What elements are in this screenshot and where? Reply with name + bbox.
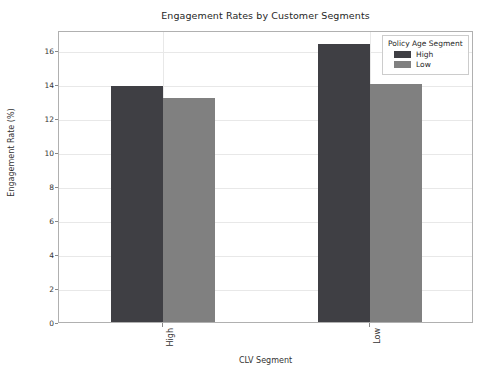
legend-entries: HighLow [388, 50, 463, 69]
x-axis-tick-mark [369, 323, 370, 327]
chart-figure: Engagement Rates by Customer Segments 02… [0, 0, 495, 376]
y-axis-label: Engagement Rate (%) [7, 43, 16, 263]
legend-entry-label: Low [416, 60, 431, 69]
legend-swatch [394, 51, 411, 58]
legend-entry[interactable]: High [394, 50, 463, 59]
plot-inner [59, 32, 472, 322]
chart-title: Engagement Rates by Customer Segments [58, 10, 473, 21]
y-axis-tick-label: 14 [20, 81, 54, 90]
x-axis-label: CLV Segment [58, 356, 473, 365]
legend-entry-label: High [416, 50, 433, 59]
y-axis-tick-mark [55, 323, 59, 324]
legend: Policy Age Segment HighLow [382, 35, 469, 75]
bar [370, 84, 422, 322]
y-axis-tick-label: 10 [20, 149, 54, 158]
x-axis-tick-label: High [166, 328, 175, 346]
y-axis-tick-label: 12 [20, 115, 54, 124]
y-axis-tick-label: 4 [20, 251, 54, 260]
y-axis-tick-label: 8 [20, 183, 54, 192]
y-axis-tick-label: 6 [20, 217, 54, 226]
y-axis-tick-label: 16 [20, 47, 54, 56]
legend-title: Policy Age Segment [388, 39, 463, 48]
x-axis-tick-label: Low [373, 328, 382, 344]
bar [163, 98, 215, 322]
legend-entry[interactable]: Low [394, 60, 463, 69]
bar [111, 86, 163, 322]
x-axis-tick-mark [162, 323, 163, 327]
legend-swatch [394, 61, 411, 68]
y-axis-tick-label: 2 [20, 285, 54, 294]
y-axis-tick-label: 0 [20, 319, 54, 328]
bar [318, 44, 370, 322]
